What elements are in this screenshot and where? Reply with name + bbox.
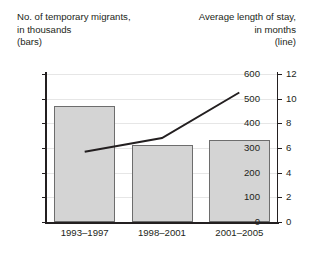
left-axis-caption: No. of temporary migrants, in thousands … — [17, 11, 131, 49]
chart-figure: No. of temporary migrants, in thousands … — [0, 0, 312, 253]
right-axis-tick-label: 2 — [286, 192, 308, 202]
right-axis-caption: Average length of stay, in months (line) — [199, 11, 296, 49]
left-axis-tick — [42, 197, 46, 198]
left-axis-tick — [42, 222, 46, 223]
left-axis-tick — [42, 123, 46, 124]
right-axis-tick-label: 0 — [286, 217, 308, 227]
right-axis-tick — [278, 99, 282, 100]
right-axis-tick-label: 6 — [286, 143, 308, 153]
right-axis-tick — [278, 74, 282, 75]
category-label: 1998–2001 — [123, 227, 200, 238]
right-axis-tick — [278, 148, 282, 149]
left-axis-tick — [42, 74, 46, 75]
right-axis-tick-label: 12 — [286, 69, 308, 79]
left-axis-tick-label: 500 — [230, 94, 260, 104]
right-axis-tick-label: 8 — [286, 118, 308, 128]
left-axis-tick-label: 200 — [230, 168, 260, 178]
right-axis-tick-label: 10 — [286, 94, 308, 104]
right-axis-tick — [278, 197, 282, 198]
left-axis-tick — [42, 99, 46, 100]
category-label: 1993–1997 — [46, 227, 123, 238]
left-axis-tick-label: 0 — [230, 217, 260, 227]
left-axis-tick-label: 100 — [230, 192, 260, 202]
left-axis-tick — [42, 173, 46, 174]
left-axis-tick-label: 400 — [230, 118, 260, 128]
left-axis-tick — [42, 148, 46, 149]
right-axis-tick — [278, 222, 282, 223]
category-label: 2001–2005 — [201, 227, 278, 238]
right-axis-tick — [278, 173, 282, 174]
left-axis-tick-label: 600 — [230, 69, 260, 79]
line-series-path — [85, 93, 240, 152]
right-axis-tick-label: 4 — [286, 168, 308, 178]
left-axis-tick-label: 300 — [230, 143, 260, 153]
right-axis-tick — [278, 123, 282, 124]
